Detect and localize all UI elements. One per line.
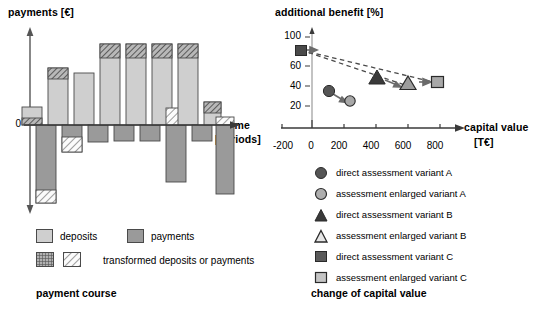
legend-marker-circle-dark <box>316 168 327 179</box>
point-assessment-enlarged-variant-a <box>345 96 355 106</box>
legend-label-assessment-enlarged-variant-b: assessment enlarged variant B <box>336 230 466 241</box>
time-axis-arrow <box>230 121 240 129</box>
legend-marker-triangle-light <box>315 231 327 243</box>
capital-value-caption: change of capital value <box>311 287 427 299</box>
legend-label-direct-assessment-variant-c: direct assessment variant C <box>336 251 453 262</box>
trend-line-lower <box>301 50 433 82</box>
legend-label-deposits: deposits <box>60 231 97 242</box>
point-assessment-enlarged-variant-b <box>400 76 416 90</box>
trend-line-upper <box>301 50 408 86</box>
legend-label-direct-assessment-variant-b: direct assessment variant B <box>336 209 453 220</box>
legend-label-transformed: transformed deposits or payments <box>103 255 254 266</box>
legend-label-assessment-enlarged-variant-c: assessment enlarged variant C <box>336 272 467 283</box>
legend-marker-circle-light <box>316 189 327 200</box>
point-assessment-enlarged-variant-c <box>432 77 444 88</box>
x-axis-arrow <box>455 124 465 131</box>
legend-swatch-deposits <box>36 229 53 243</box>
payment-course-plot <box>0 0 267 225</box>
point-direct-assessment-variant-c <box>296 46 307 56</box>
payments-axis-arrow-down <box>27 205 34 214</box>
capital-value-plot <box>267 0 534 160</box>
legend-swatch-transformed-pair <box>36 252 96 270</box>
arrow-c-head <box>423 79 431 86</box>
point-direct-assessment-variant-a <box>323 85 334 96</box>
legend-marker-square-dark <box>316 252 327 262</box>
bar-group-9 <box>216 117 234 194</box>
legend-marker-triangle-dark <box>315 210 327 222</box>
payment-course-caption: payment course <box>36 287 117 299</box>
legend-label-assessment-enlarged-variant-a: assessment enlarged variant A <box>336 188 466 199</box>
point-direct-assessment-variant-b <box>369 70 385 84</box>
x-tick-marks <box>282 120 440 128</box>
payments-axis-arrow-up <box>27 27 34 36</box>
capital-value-legend-markers <box>311 167 331 285</box>
y-axis-arrow <box>309 27 314 34</box>
legend-marker-square-light <box>316 273 327 283</box>
legend-swatch-payments <box>127 229 144 243</box>
legend-label-direct-assessment-variant-a: direct assessment variant A <box>336 167 452 178</box>
legend-label-payments: payments <box>151 231 194 242</box>
payment-course-panel: payments [€] 0 time [periods] <box>0 0 267 316</box>
arrow-c0-head <box>310 47 317 53</box>
capital-value-panel: additional benefit [%] 100 60 40 20 -200… <box>267 0 534 316</box>
figure-root: payments [€] 0 time [periods] <box>0 0 534 316</box>
trend-lines <box>301 50 433 86</box>
